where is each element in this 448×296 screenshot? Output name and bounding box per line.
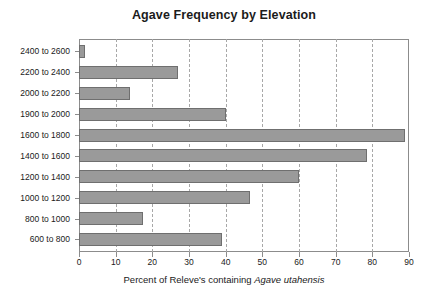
bar-1000-to-1200[interactable]: [79, 191, 250, 204]
y-axis-label: 1200 to 1400: [0, 170, 75, 184]
bar-1200-to-1400[interactable]: [79, 170, 299, 183]
bar-series: [79, 39, 409, 252]
bar-2200-to-2400[interactable]: [79, 66, 178, 79]
y-axis-label: 600 to 800: [0, 232, 75, 246]
x-axis-tick-label: 30: [184, 257, 193, 267]
bar-2000-to-2200[interactable]: [79, 87, 130, 100]
y-axis-label: 2000 to 2200: [0, 86, 75, 100]
bar-1400-to-1600[interactable]: [79, 149, 367, 162]
x-axis-tick-labels: 0102030405060708090: [79, 257, 409, 269]
y-axis-label: 1600 to 1800: [0, 128, 75, 142]
x-axis-tick-label: 60: [294, 257, 303, 267]
x-axis-title: Percent of Releve's containing Agave uta…: [0, 274, 448, 285]
chart-title: Agave Frequency by Elevation: [0, 8, 448, 22]
x-axis-tick-label: 20: [148, 257, 157, 267]
plot-area: [79, 39, 409, 252]
bar-row: [79, 128, 409, 142]
bar-row: [79, 86, 409, 100]
bar-2400-to-2600[interactable]: [79, 45, 85, 58]
y-axis-label: 1400 to 1600: [0, 149, 75, 163]
bar-row: [79, 107, 409, 121]
bar-600-to-800[interactable]: [79, 233, 222, 246]
x-axis-title-species: Agave utahensis: [254, 274, 324, 285]
y-axis-label: 1000 to 1200: [0, 191, 75, 205]
x-axis-title-prefix: Percent of Releve's containing: [124, 274, 255, 285]
y-axis-label: 800 to 1000: [0, 212, 75, 226]
bar-800-to-1000[interactable]: [79, 212, 143, 225]
bar-row: [79, 191, 409, 205]
y-axis-labels: 2400 to 26002200 to 24002000 to 22001900…: [0, 39, 75, 252]
x-axis-tick-label: 40: [221, 257, 230, 267]
x-axis-tick-label: 70: [331, 257, 340, 267]
bar-row: [79, 65, 409, 79]
bar-row: [79, 44, 409, 58]
x-axis-tick-label: 90: [404, 257, 413, 267]
bar-row: [79, 170, 409, 184]
bar-row: [79, 212, 409, 226]
x-axis-tick-label: 10: [111, 257, 120, 267]
y-axis-label: 2200 to 2400: [0, 65, 75, 79]
x-axis-tick-label: 50: [258, 257, 267, 267]
y-axis-label: 1900 to 2000: [0, 107, 75, 121]
y-axis-label: 2400 to 2600: [0, 44, 75, 58]
bar-1600-to-1800[interactable]: [79, 129, 405, 142]
x-axis-tick-label: 80: [368, 257, 377, 267]
bar-row: [79, 232, 409, 246]
bar-row: [79, 149, 409, 163]
bar-1900-to-2000[interactable]: [79, 108, 226, 121]
x-axis-tick-label: 0: [77, 257, 82, 267]
chart-container: Agave Frequency by Elevation 2400 to 260…: [0, 0, 448, 296]
